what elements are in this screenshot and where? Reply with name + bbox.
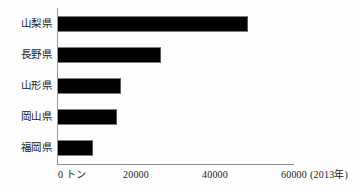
bar-track [58,16,248,31]
bar-category-label: 山梨県 [0,18,52,30]
x-tick-label: 60000 [281,168,307,181]
bar-row: 岡山県 [0,102,358,133]
bar-track [58,78,121,93]
bar-track [58,141,93,156]
x-tick-label: 40000 [202,168,228,181]
bar [58,110,117,125]
bar [58,78,121,93]
x-tick-label: 20000 [123,168,149,181]
bar-row: 福岡県 [0,133,358,164]
bar-row: 長野県 [0,39,358,70]
bar-category-label: 山形県 [0,80,52,92]
bar-row: 山形県 [0,70,358,101]
bar [58,141,93,156]
bar-chart: 山梨県長野県山形県岡山県福岡県 0 トン200004000060000 (201… [0,0,358,193]
bar-category-label: 福岡県 [0,142,52,154]
bar [58,16,248,31]
bar-track [58,47,161,62]
bar [58,47,161,62]
x-axis-line [57,164,294,165]
bar-category-label: 長野県 [0,49,52,61]
x-tick-label: 0 トン [58,168,86,181]
bar-track [58,110,117,125]
bar-category-label: 岡山県 [0,111,52,123]
year-annotation: (2013年) [310,168,348,181]
bar-row: 山梨県 [0,8,358,39]
